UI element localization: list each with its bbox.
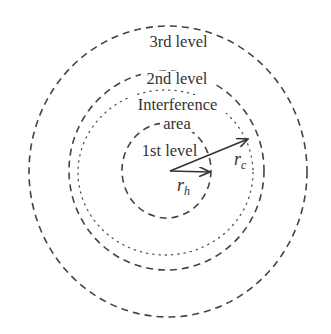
- interference-label: Interference: [138, 95, 218, 114]
- rh-label-sub: h: [184, 184, 190, 198]
- rc-label-sub: c: [241, 158, 247, 172]
- third-level-label: 3rd level: [149, 32, 208, 51]
- rh-label: rh: [177, 175, 190, 198]
- rc-label: rc: [234, 149, 247, 172]
- rh-arrow: [170, 171, 210, 172]
- area-label: area: [163, 114, 191, 133]
- first-level-label: 1st level: [142, 141, 198, 160]
- concentric-levels-diagram: 3rd level 2nd level Interference area 1s…: [0, 0, 331, 334]
- second-level-label: 2nd level: [147, 69, 208, 88]
- first-level-ring: [122, 123, 211, 218]
